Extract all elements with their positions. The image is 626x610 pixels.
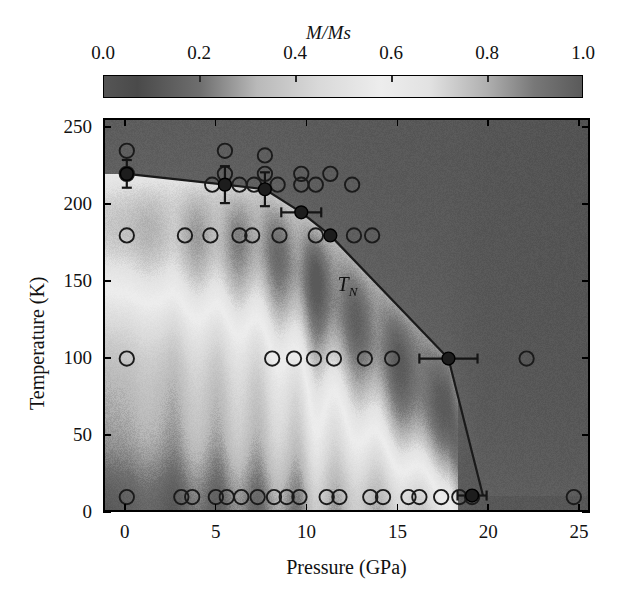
data-point-filled[interactable] xyxy=(120,167,133,180)
colorbar-tick-label-3: 0.6 xyxy=(379,42,403,64)
x-tick-mark xyxy=(124,118,126,126)
x-tick-label-15: 15 xyxy=(388,521,407,543)
data-point-open[interactable] xyxy=(434,490,448,504)
x-tick-label-10: 10 xyxy=(297,521,316,543)
neel-temperature-label: TN xyxy=(338,273,358,300)
x-tick-mark xyxy=(124,504,126,512)
data-point-open[interactable] xyxy=(347,228,361,242)
figure-canvas: M/Ms 0.00.20.40.60.81.0 Temperature (K) … xyxy=(0,0,626,610)
y-tick-mark xyxy=(582,511,590,513)
data-overlay xyxy=(105,120,590,512)
y-tick-mark xyxy=(103,511,111,513)
data-point-open[interactable] xyxy=(185,490,199,504)
y-tick-label-250: 250 xyxy=(40,116,92,138)
data-point-open[interactable] xyxy=(519,351,533,365)
x-tick-mark xyxy=(397,118,399,126)
data-point-filled[interactable] xyxy=(324,229,337,242)
colorbar-tick-mark xyxy=(391,76,392,82)
colorbar-title: M/Ms xyxy=(306,22,351,44)
x-tick-mark xyxy=(215,118,217,126)
y-tick-mark xyxy=(582,434,590,436)
y-axis-label: Temperature (K) xyxy=(26,276,49,410)
data-point-open[interactable] xyxy=(220,490,234,504)
x-tick-mark xyxy=(487,504,489,512)
x-tick-mark xyxy=(397,504,399,512)
colorbar-tick-label-1: 0.2 xyxy=(187,42,211,64)
data-point-open[interactable] xyxy=(309,177,323,191)
colorbar-tick-label-5: 1.0 xyxy=(571,42,595,64)
colorbar-tick-mark xyxy=(199,76,200,82)
y-tick-mark xyxy=(582,357,590,359)
x-tick-mark xyxy=(306,118,308,126)
data-point-open[interactable] xyxy=(345,177,359,191)
data-point-open[interactable] xyxy=(120,490,134,504)
y-tick-mark xyxy=(582,280,590,282)
x-tick-mark xyxy=(578,118,580,126)
x-tick-mark xyxy=(215,504,217,512)
data-point-open[interactable] xyxy=(258,148,272,162)
data-point-open[interactable] xyxy=(120,144,134,158)
data-point-open[interactable] xyxy=(265,351,279,365)
x-tick-label-5: 5 xyxy=(211,521,221,543)
colorbar-tick-mark xyxy=(295,76,296,82)
y-tick-label-100: 100 xyxy=(40,347,92,369)
data-point-open[interactable] xyxy=(218,144,232,158)
x-axis-label: Pressure (GPa) xyxy=(286,556,407,579)
x-tick-mark xyxy=(306,504,308,512)
y-tick-mark xyxy=(582,126,590,128)
colorbar xyxy=(103,75,583,98)
data-point-filled[interactable] xyxy=(466,489,479,502)
y-tick-mark xyxy=(582,203,590,205)
data-point-open[interactable] xyxy=(120,351,134,365)
data-point-open[interactable] xyxy=(327,351,341,365)
data-point-filled[interactable] xyxy=(295,206,308,219)
y-tick-mark xyxy=(103,126,111,128)
data-point-filled[interactable] xyxy=(442,352,455,365)
tn-subscript: N xyxy=(349,284,358,299)
data-point-open[interactable] xyxy=(178,228,192,242)
y-tick-label-50: 50 xyxy=(40,424,92,446)
data-point-filled[interactable] xyxy=(259,183,272,196)
data-point-open[interactable] xyxy=(287,351,301,365)
colorbar-gradient xyxy=(104,76,582,97)
data-point-open[interactable] xyxy=(270,177,284,191)
data-point-open[interactable] xyxy=(120,228,134,242)
y-tick-mark xyxy=(103,434,111,436)
data-point-open[interactable] xyxy=(272,228,286,242)
y-tick-label-150: 150 xyxy=(40,270,92,292)
data-point-open[interactable] xyxy=(309,228,323,242)
x-tick-label-25: 25 xyxy=(570,521,589,543)
plot-frame: TN xyxy=(103,118,590,512)
plot-area-wrapper: TN xyxy=(103,118,590,512)
data-point-filled[interactable] xyxy=(219,178,232,191)
x-tick-mark xyxy=(578,504,580,512)
data-point-open[interactable] xyxy=(567,490,581,504)
data-point-open[interactable] xyxy=(358,351,372,365)
y-tick-mark xyxy=(103,357,111,359)
data-point-open[interactable] xyxy=(365,228,379,242)
data-point-open[interactable] xyxy=(323,167,337,181)
x-tick-label-20: 20 xyxy=(479,521,498,543)
colorbar-tick-label-0: 0.0 xyxy=(91,42,115,64)
y-tick-mark xyxy=(103,203,111,205)
colorbar-tick-label-2: 0.4 xyxy=(283,42,307,64)
data-point-open[interactable] xyxy=(234,490,248,504)
colorbar-tick-label-4: 0.8 xyxy=(475,42,499,64)
phase-boundary-line xyxy=(127,174,483,496)
data-point-open[interactable] xyxy=(250,490,264,504)
data-point-open[interactable] xyxy=(412,490,426,504)
y-tick-label-200: 200 xyxy=(40,193,92,215)
colorbar-tick-mark xyxy=(487,76,488,82)
data-point-open[interactable] xyxy=(307,351,321,365)
y-tick-label-0: 0 xyxy=(40,501,92,523)
x-tick-label-0: 0 xyxy=(120,521,130,543)
y-tick-mark xyxy=(103,280,111,282)
data-point-open[interactable] xyxy=(203,228,217,242)
data-point-open[interactable] xyxy=(385,351,399,365)
x-tick-mark xyxy=(487,118,489,126)
tn-symbol: T xyxy=(338,273,349,295)
data-point-open[interactable] xyxy=(294,177,308,191)
